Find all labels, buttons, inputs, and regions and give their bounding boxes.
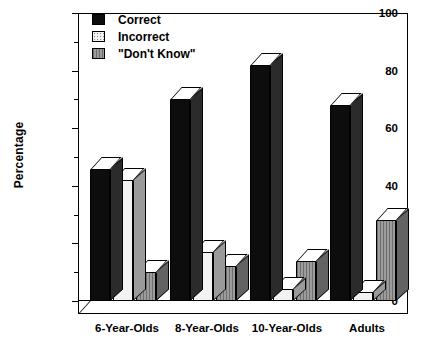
legend: Correct Incorrect "Don't Know": [92, 12, 196, 63]
y-minor-tick-30: [74, 215, 78, 216]
bar-front-face: [250, 65, 270, 301]
x-axis-line: [78, 313, 408, 314]
y-tick-100: [72, 13, 78, 14]
legend-label-dontknow: "Don't Know": [118, 47, 196, 61]
y-axis-line: [78, 13, 79, 314]
y-axis-title: Percentage: [12, 110, 26, 200]
legend-item-dontknow: "Don't Know": [92, 46, 196, 61]
y-tick-80: [72, 71, 78, 72]
bar-side-face: [190, 88, 203, 301]
legend-item-incorrect: Incorrect: [92, 29, 196, 44]
floor-origin-diagonal: [79, 300, 92, 313]
legend-swatch-incorrect: [92, 31, 105, 42]
bar-side-face: [350, 93, 363, 301]
chart-figure: Percentage 020406080100 6-Year-Olds8-Yea…: [0, 0, 422, 348]
y-tick-20: [72, 243, 78, 244]
bar-side-face: [396, 209, 409, 301]
y-minor-tick-50: [74, 157, 78, 158]
bar-correct-10-year-olds: [250, 65, 270, 301]
bar-front-face: [330, 105, 350, 301]
y-tick-0: [72, 301, 78, 302]
legend-swatch-dontknow: [92, 48, 105, 59]
bar-front-face: [170, 99, 190, 301]
bar-correct-6-year-olds: [90, 169, 110, 301]
legend-label-correct: Correct: [118, 13, 161, 27]
y-tick-60: [72, 128, 78, 129]
bar-side-face: [133, 168, 146, 301]
bar-side-face: [270, 53, 283, 301]
bar-group-adults: [330, 13, 404, 301]
y-minor-tick-70: [74, 99, 78, 100]
legend-swatch-correct: [92, 14, 105, 25]
y-tick-40: [72, 186, 78, 187]
axis-floor-3d: [79, 300, 408, 313]
legend-item-correct: Correct: [92, 12, 196, 27]
bar-correct-8-year-olds: [170, 99, 190, 301]
legend-label-incorrect: Incorrect: [118, 30, 169, 44]
bar-side-face: [110, 157, 123, 301]
bar-correct-adults: [330, 105, 350, 301]
y-minor-tick-90: [74, 42, 78, 43]
x-axis-label-adults: Adults: [320, 322, 414, 334]
y-minor-tick-10: [74, 272, 78, 273]
bar-front-face: [90, 169, 110, 301]
bar-group-10-year-olds: [250, 13, 324, 301]
